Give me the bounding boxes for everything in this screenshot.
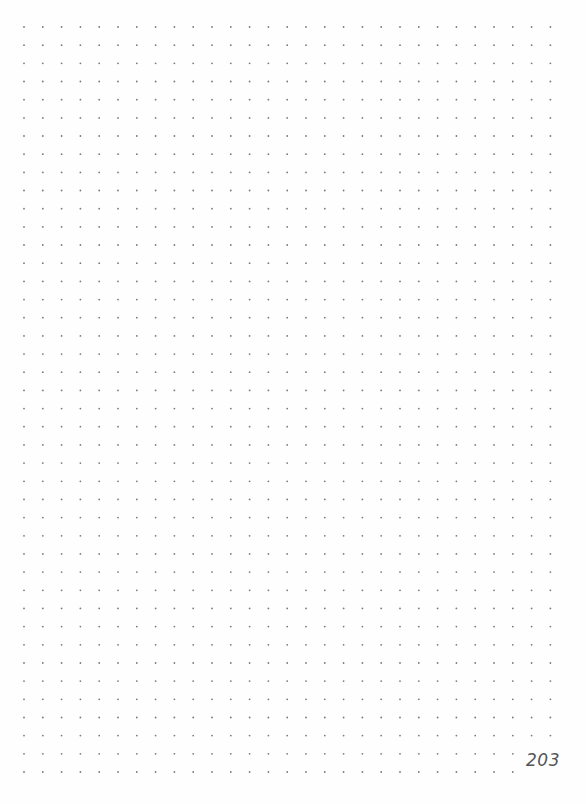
page-number: 203 (526, 750, 560, 770)
dot-grid (0, 0, 586, 804)
notebook-page: 203 (0, 0, 586, 804)
